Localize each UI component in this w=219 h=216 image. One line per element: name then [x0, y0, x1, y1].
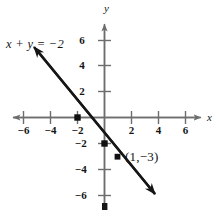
line-segment-up-left — [34, 47, 155, 194]
x-tick-label--6: −6 — [17, 125, 29, 136]
y-tick-label--6: −6 — [75, 190, 87, 201]
graph-figure: −6 −4 −2 2 4 6 6 4 2 −2 −4 −6 x y x + y … — [0, 0, 219, 216]
x-tick-label-2: 2 — [129, 125, 135, 136]
y-tick-label-4: 4 — [79, 60, 85, 71]
point-marker-1--3 — [115, 154, 121, 160]
x-tick-label-6: 6 — [183, 125, 189, 136]
point-marker-0--2 — [101, 140, 107, 146]
equation-line — [34, 47, 155, 194]
x-tick-label-4: 4 — [156, 125, 162, 136]
x-tick-label--2: −2 — [71, 125, 83, 136]
x-axis — [13, 111, 201, 124]
x-tick-label--4: −4 — [44, 125, 56, 136]
equation-annotation: x + y = −2 — [6, 38, 64, 51]
coordinate-plane-svg — [0, 0, 219, 216]
y-tick-label--2: −2 — [75, 138, 87, 149]
point-marker--2-0 — [74, 114, 80, 120]
x-axis-label: x — [207, 112, 212, 123]
y-tick-label-2: 2 — [79, 86, 85, 97]
point-annotation: (1,−3) — [125, 150, 158, 163]
y-axis-label: y — [104, 3, 109, 14]
y-axis-bottom-cap — [102, 203, 107, 210]
y-tick-label--4: −4 — [75, 164, 87, 175]
y-tick-label-6: 6 — [79, 35, 85, 46]
